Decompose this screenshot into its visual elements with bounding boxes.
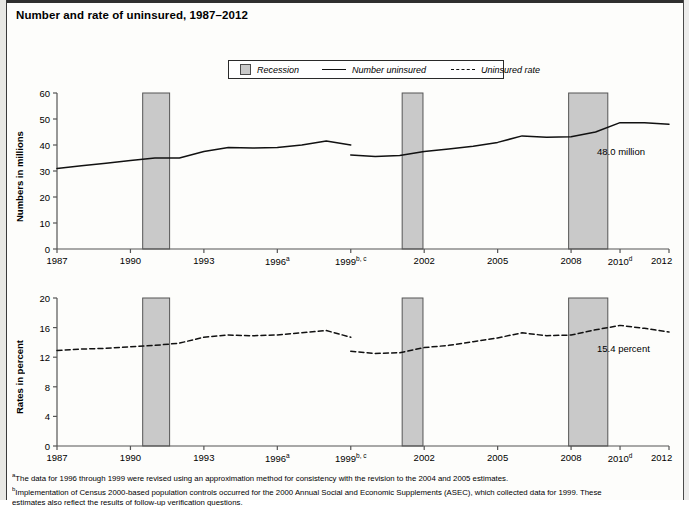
recession-band <box>569 298 608 446</box>
chart-number-uninsured <box>57 93 669 249</box>
recession-band <box>569 93 608 249</box>
x-tick-footnote-mark: d <box>629 255 633 262</box>
y-tick-label: 12 <box>30 352 50 363</box>
footnote-text-b-cont: estimates also reflect the results of fo… <box>12 498 243 506</box>
y-tick-label: 20 <box>30 293 50 304</box>
x-tick-label: 1999b, c <box>335 452 367 464</box>
x-tick-label: 2002 <box>414 255 435 266</box>
legend-item-uninsured-rate: Uninsured rate <box>451 65 540 75</box>
y-tick-label: 10 <box>30 218 50 229</box>
annotation-uninsured-rate: 15.4 percent <box>597 343 650 354</box>
x-tick-label: 2010d <box>608 255 633 267</box>
recession-swatch-icon <box>240 64 251 75</box>
footnote-a: aThe data for 1996 through 1999 were rev… <box>12 470 680 484</box>
x-tick-label: 2012 <box>651 452 672 463</box>
x-tick-label: 2005 <box>487 255 508 266</box>
footnote-b-continued: estimates also reflect the results of fo… <box>12 498 680 506</box>
chart-canvas-top <box>57 93 669 249</box>
x-tick-footnote-mark: a <box>286 452 290 459</box>
x-tick-label: 1990 <box>120 452 141 463</box>
number-uninsured-line <box>57 141 351 168</box>
legend-item-recession: Recession <box>240 64 299 75</box>
y-axis-label-top: Numbers in millions <box>14 118 25 236</box>
x-tick-footnote-mark: d <box>629 452 633 459</box>
x-tick-footnote-mark: b, c <box>356 452 366 459</box>
x-tick-label: 2012 <box>651 255 672 266</box>
x-tick-label: 1996a <box>265 255 290 267</box>
y-tick-label: 8 <box>30 381 50 392</box>
x-tick-label: 1990 <box>120 255 141 266</box>
scan-edge-top <box>0 0 689 3</box>
x-tick-label: 1996a <box>265 452 290 464</box>
footnote-text-a: The data for 1996 through 1999 were revi… <box>15 474 508 483</box>
y-tick-label: 60 <box>30 88 50 99</box>
recession-band <box>143 93 170 249</box>
scan-edge-right <box>683 0 689 500</box>
x-tick-footnote-mark: b, c <box>356 255 366 262</box>
annotation-number-uninsured: 48.0 million <box>597 146 645 157</box>
y-tick-label: 0 <box>30 441 50 452</box>
y-tick-label: 20 <box>30 192 50 203</box>
x-tick-label: 2005 <box>487 452 508 463</box>
y-tick-label: 40 <box>30 140 50 151</box>
legend-label-uninsured-rate: Uninsured rate <box>481 65 540 75</box>
x-tick-label: 2008 <box>561 255 582 266</box>
legend-label-number-uninsured: Number uninsured <box>352 65 426 75</box>
footnote-b: bImplementation of Census 2000-based pop… <box>12 484 680 498</box>
chart-uninsured-rate <box>57 298 669 446</box>
recession-band <box>143 298 170 446</box>
y-tick-label: 50 <box>30 114 50 125</box>
x-tick-label: 1999b, c <box>335 255 367 267</box>
y-tick-label: 0 <box>30 244 50 255</box>
solid-line-swatch-icon <box>322 69 346 70</box>
x-tick-label: 2008 <box>561 452 582 463</box>
y-axis-label-bottom: Rates in percent <box>14 322 25 432</box>
dashed-line-swatch-icon <box>451 69 475 70</box>
x-tick-footnote-mark: a <box>286 255 290 262</box>
chart-canvas-bottom <box>57 298 669 446</box>
figure-title: Number and rate of uninsured, 1987–2012 <box>16 9 248 21</box>
y-tick-label: 30 <box>30 166 50 177</box>
x-tick-label: 1993 <box>193 452 214 463</box>
uninsured-rate-line <box>57 331 351 351</box>
footnote-text-b: Implementation of Census 2000-based popu… <box>15 488 601 497</box>
x-tick-label: 1987 <box>46 255 67 266</box>
x-tick-label: 2002 <box>414 452 435 463</box>
y-tick-label: 16 <box>30 322 50 333</box>
footnotes: aThe data for 1996 through 1999 were rev… <box>12 470 680 506</box>
chart-legend: Recession Number uninsured Uninsured rat… <box>228 60 504 79</box>
x-tick-label: 1993 <box>193 255 214 266</box>
y-tick-label: 4 <box>30 411 50 422</box>
legend-label-recession: Recession <box>257 65 299 75</box>
recession-band <box>402 298 423 446</box>
x-tick-label: 2010d <box>608 452 633 464</box>
recession-band <box>402 93 423 249</box>
scan-edge-left <box>0 0 7 500</box>
x-tick-label: 1987 <box>46 452 67 463</box>
legend-item-number-uninsured: Number uninsured <box>322 65 426 75</box>
